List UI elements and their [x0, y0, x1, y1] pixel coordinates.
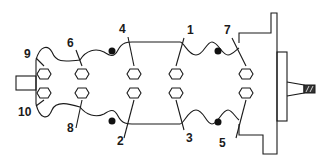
- bolt-1-icon: [169, 69, 183, 79]
- label-bolt-3: 3: [186, 131, 193, 145]
- label-bolt-5: 5: [219, 136, 226, 150]
- bolt-sequence-diagram: 9 6 4 1 7 10 8 2 3 5: [0, 0, 334, 168]
- label-bolt-7: 7: [224, 23, 231, 37]
- bolt-8-icon: [75, 88, 89, 98]
- right-end-housing: [239, 13, 277, 154]
- leader-4: [128, 37, 134, 66]
- bolt-7-icon: [239, 69, 253, 79]
- bolt-9-icon: [37, 69, 51, 79]
- label-bolt-10: 10: [18, 105, 32, 119]
- label-bolt-6: 6: [67, 36, 74, 50]
- bolt-2-icon: [127, 88, 141, 98]
- left-shaft-stub: [16, 76, 36, 90]
- label-bolt-4: 4: [119, 22, 126, 36]
- dowel-bottom-left-icon: [109, 118, 116, 125]
- bolt-10-icon: [37, 88, 51, 98]
- bolt-4-icon: [127, 69, 141, 79]
- right-flange: [277, 52, 287, 121]
- dowel-top-left-icon: [109, 48, 116, 55]
- label-bolt-9: 9: [24, 47, 31, 61]
- leader-8: [76, 100, 82, 128]
- leader-10: [36, 100, 44, 106]
- hatched-end-icon: [304, 85, 315, 93]
- leader-3: [176, 100, 184, 130]
- dowel-top-right-icon: [215, 48, 222, 55]
- right-end-housing-top: [239, 33, 256, 43]
- bolt-5-icon: [239, 88, 253, 98]
- leader-2: [124, 100, 134, 138]
- dowel-bottom-right-icon: [215, 119, 222, 126]
- leader-9: [36, 58, 44, 66]
- right-shaft-taper: [287, 82, 304, 96]
- bolt-3-icon: [169, 88, 183, 98]
- label-bolt-2: 2: [117, 134, 124, 148]
- label-bolt-8: 8: [67, 121, 74, 135]
- label-bolt-1: 1: [187, 23, 194, 37]
- bolt-6-icon: [75, 69, 89, 79]
